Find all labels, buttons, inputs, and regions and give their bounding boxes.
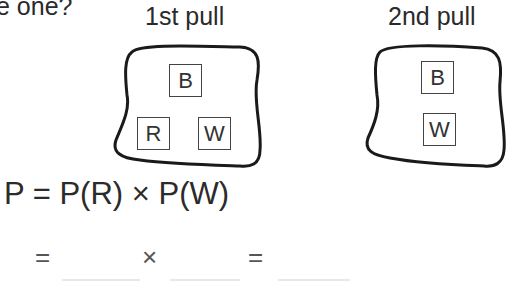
tile-b: B [421, 61, 454, 94]
probability-equation: P = P(R) × P(W) [4, 176, 229, 212]
bag-label-second-pull: 2nd pull [388, 2, 476, 31]
equals-sign: = [248, 242, 263, 273]
question-text-fragment: e one? [0, 0, 72, 21]
tile-r: R [137, 117, 170, 150]
bag-outline-second-pull [362, 40, 513, 170]
bag-outline-first-pull [110, 40, 270, 170]
equals-sign: = [35, 242, 50, 273]
tile-b: B [169, 64, 202, 97]
tile-w: W [423, 113, 456, 146]
times-sign: × [142, 242, 157, 273]
tile-w: W [198, 117, 231, 150]
bag-label-first-pull: 1st pull [145, 2, 224, 31]
